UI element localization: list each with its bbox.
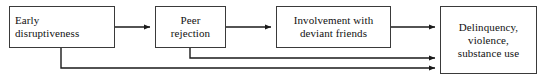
flow-diagram: Early disruptiveness Peer rejection Invo… — [0, 0, 541, 79]
node-delinquency-outcomes: Delinquency, violence, substance use — [440, 6, 537, 74]
edge-peer-to-delinquency — [190, 48, 435, 58]
node-peer-rejection: Peer rejection — [155, 6, 226, 48]
node-label-early-disruptiveness: Early disruptiveness — [10, 14, 82, 40]
node-label-deviant-friends: Involvement with deviant friends — [291, 14, 377, 40]
node-deviant-friends: Involvement with deviant friends — [276, 6, 391, 48]
edge-early-to-delinquency — [61, 48, 435, 68]
node-label-delinquency-outcomes: Delinquency, violence, substance use — [455, 21, 522, 60]
node-early-disruptiveness: Early disruptiveness — [9, 6, 115, 48]
node-label-peer-rejection: Peer rejection — [168, 14, 213, 40]
